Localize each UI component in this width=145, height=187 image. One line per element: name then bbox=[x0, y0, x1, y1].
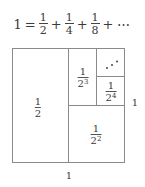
label-numerator: 1 bbox=[93, 124, 99, 134]
bottom-side-label: 1 bbox=[66, 170, 72, 181]
exponent: 2 bbox=[97, 135, 101, 143]
label-numerator: 1 bbox=[108, 81, 114, 91]
exponent: 4 bbox=[112, 92, 116, 100]
label-denominator: 23 bbox=[78, 77, 89, 89]
cell-label-half: 1 2 bbox=[35, 97, 41, 119]
right-side-label: 1 bbox=[132, 97, 138, 108]
label-denominator: 22 bbox=[91, 134, 102, 146]
label-denominator: 2 bbox=[35, 107, 41, 119]
cell-label-quarter: 1 22 bbox=[91, 124, 102, 146]
label-numerator: 1 bbox=[35, 97, 41, 107]
remainder-ellipsis-icon bbox=[106, 61, 118, 69]
label-numerator: 1 bbox=[80, 67, 86, 77]
cell-label-sixteenth: 1 24 bbox=[106, 81, 117, 103]
label-denominator: 24 bbox=[106, 91, 117, 103]
cell-label-eighth: 1 23 bbox=[78, 67, 89, 89]
unit-square-diagram bbox=[0, 0, 145, 187]
exponent: 3 bbox=[84, 78, 88, 86]
